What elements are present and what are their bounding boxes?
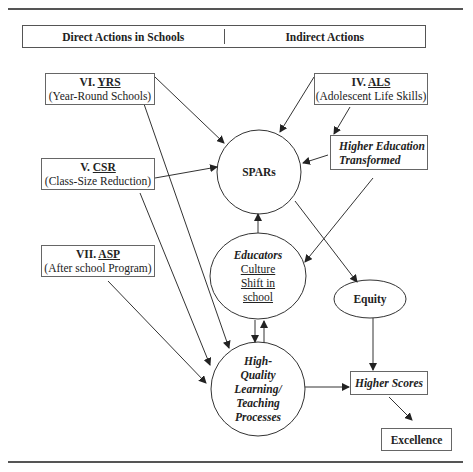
yrs-full: (Year-Round Schools) [46, 89, 154, 103]
educators-node: Educators Culture Shift in school [210, 233, 306, 319]
asp-numeral: VII. [76, 248, 96, 260]
higher-scores-box: Higher Scores [350, 371, 428, 395]
het-line1: Higher Education [339, 139, 427, 153]
spars-node: SPARs [217, 130, 301, 214]
hql-line2: Quality [240, 368, 275, 382]
asp-abbr: ASP [98, 248, 120, 260]
excellence-label: Excellence [382, 433, 451, 447]
als-abbr: ALS [368, 76, 390, 88]
als-numeral: IV. [352, 76, 366, 88]
yrs-numeral: VI. [79, 76, 95, 88]
yrs-box: VI. YRS (Year-Round Schools) [45, 73, 155, 105]
equity-label: Equity [353, 292, 386, 306]
hql-line3: Learning/ [234, 382, 281, 396]
hql-line4: Teaching [236, 396, 280, 410]
educators-line3: school [243, 290, 273, 304]
higher-education-box: Higher Education Transformed [330, 135, 428, 170]
hql-line1: High- [244, 354, 272, 368]
equity-node: Equity [334, 280, 406, 318]
csr-box: V. CSR (Class-Size Reduction) [41, 158, 155, 190]
educators-title: Educators [234, 248, 283, 262]
spars-label: SPARs [242, 165, 276, 179]
het-line2: Transformed [339, 153, 427, 167]
als-full: (Adolescent Life Skills) [315, 89, 427, 103]
als-box: IV. ALS (Adolescent Life Skills) [314, 73, 428, 105]
higher-scores-label: Higher Scores [351, 376, 427, 390]
csr-abbr: CSR [93, 161, 116, 173]
csr-numeral: V. [80, 161, 90, 173]
hql-node: High- Quality Learning/ Teaching Process… [211, 342, 305, 436]
hql-line5: Processes [235, 410, 281, 424]
excellence-box: Excellence [381, 428, 452, 451]
csr-full: (Class-Size Reduction) [42, 174, 154, 188]
asp-full: (After school Program) [42, 261, 154, 275]
yrs-abbr: YRS [98, 76, 121, 88]
educators-line2: Shift in [241, 276, 275, 290]
educators-line1: Culture [241, 262, 276, 276]
asp-box: VII. ASP (After school Program) [41, 245, 155, 277]
